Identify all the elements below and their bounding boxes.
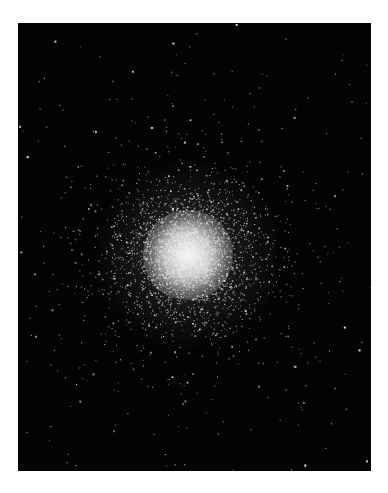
- photo-frame: [18, 23, 371, 471]
- star-field: [18, 23, 371, 471]
